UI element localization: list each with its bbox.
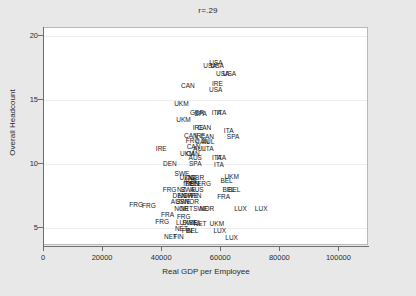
y-tick-mark [38,99,43,100]
x-tick-label: 60000 [210,253,231,262]
data-point-label: FRG [142,203,156,210]
y-tick-mark [38,163,43,164]
data-point-label: DEN [163,161,177,168]
data-point-label: UKM [174,100,188,107]
data-point-label: ITA [204,145,214,152]
x-tick-mark [338,247,339,251]
x-axis-line [43,246,369,247]
y-axis-title: Overall Headcount [8,58,17,188]
data-point-label: ITA [216,154,226,161]
data-point-label: LUX [255,206,268,213]
screenshot-root: r=.29 USAUSAUSAUSAUSACANIREUSAUKMGBRSPAI… [0,0,416,296]
plot-area: USAUSAUSAUSAUSACANIREUSAUKMGBRSPAITAITAU… [43,27,368,245]
x-tick-label: 100000 [326,253,351,262]
x-tick-mark [220,247,221,251]
x-tick-label: 80000 [269,253,290,262]
data-point-label: USA [223,71,236,78]
data-point-label: IRE [156,145,167,152]
data-point-label: LUX [234,206,247,213]
scatter-plot-figure: r=.29 USAUSAUSAUSAUSACANIREUSAUKMGBRSPAI… [0,0,416,296]
y-tick-mark [38,227,43,228]
data-point-label: SPA [189,161,202,168]
chart-title: r=.29 [0,6,416,15]
x-axis-title: Real GDP per Employee [43,267,369,276]
y-tick-mark [38,35,43,36]
gridline [44,36,367,37]
data-point-label: USA [209,86,222,93]
data-point-label: BEL [228,186,240,193]
data-point-label: FRG [155,218,169,225]
data-point-label: BEL [220,177,232,184]
y-tick-label: 10 [16,158,38,167]
x-tick-mark [161,247,162,251]
gridline [44,164,367,165]
x-tick-mark [102,247,103,251]
x-tick-mark [43,247,44,251]
data-point-label: CAN [198,125,212,132]
data-point-label: NET [180,206,193,213]
gridline [44,228,367,229]
y-tick-label: 5 [16,223,38,232]
data-point-label: USA [210,63,223,70]
data-point-label: LUX [213,227,226,234]
data-point-label: LUX [225,235,238,242]
data-point-label: CAN [181,82,195,89]
data-point-label: FIN [173,234,183,241]
data-point-label: SPA [227,134,240,141]
data-point-label: FRG [129,202,143,209]
y-axis-line [43,27,44,246]
y-tick-label: 20 [16,30,38,39]
data-point-label: ITA [214,162,224,169]
data-point-label: FRA [217,194,230,201]
x-tick-label: 0 [41,253,45,262]
y-tick-label: 15 [16,94,38,103]
data-point-label: SPA [194,111,207,118]
x-tick-mark [279,247,280,251]
data-point-label: NOR [200,206,214,213]
x-tick-label: 40000 [151,253,172,262]
data-point-label: BEL [186,227,198,234]
x-tick-label: 20000 [92,253,113,262]
data-point-label: ITA [217,109,227,116]
gridline [44,100,367,101]
data-point-label: UKM [176,117,190,124]
